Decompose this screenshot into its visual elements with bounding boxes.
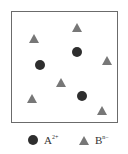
- cation-circle-icon: [72, 47, 82, 57]
- legend-item-anion: Bn−: [79, 132, 109, 148]
- cation-circle-icon: [28, 135, 38, 145]
- anion-triangle-icon: [27, 94, 37, 103]
- anion-label: Bn−: [95, 134, 109, 146]
- anion-triangle-icon: [29, 34, 39, 43]
- cation-label: A2+: [44, 134, 58, 146]
- anion-triangle-icon: [102, 56, 112, 65]
- anion-triangle-icon: [97, 106, 107, 115]
- legend-item-cation: A2+: [28, 132, 58, 148]
- anion-triangle-icon: [56, 78, 66, 87]
- cation-circle-icon: [35, 60, 45, 70]
- anion-triangle-icon: [72, 23, 82, 32]
- anion-triangle-icon: [79, 136, 89, 145]
- legend: A2+ Bn−: [0, 132, 128, 148]
- cation-circle-icon: [77, 91, 87, 101]
